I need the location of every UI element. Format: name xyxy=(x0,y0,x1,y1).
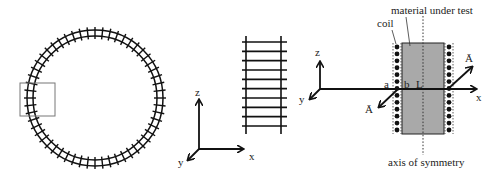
straight-coil-section xyxy=(242,36,287,134)
ring-turn xyxy=(79,29,82,41)
coil-winding-dot xyxy=(447,52,452,57)
coil-winding-dot xyxy=(395,107,400,112)
ring-turn xyxy=(79,156,82,168)
coil-winding-dot xyxy=(395,58,400,63)
y-label: y xyxy=(178,156,184,168)
ring-turn xyxy=(108,29,111,41)
vector-a-left-label: Ā xyxy=(365,103,373,115)
diagram-canvas: z x y z x y Ā Ā a b L material under tes… xyxy=(0,0,500,177)
coil-label: coil xyxy=(377,17,394,29)
cross-section: z x y Ā Ā a b L material under test coil… xyxy=(299,4,482,168)
coil-winding-dot xyxy=(395,72,400,77)
coil-winding-dot xyxy=(447,65,452,70)
ring-turn xyxy=(87,157,88,169)
ring-turn xyxy=(153,111,165,114)
ring-turn xyxy=(137,140,145,148)
coil-winding-dot xyxy=(447,45,452,50)
axis-of-symmetry-label: axis of symmetry xyxy=(388,156,465,168)
coil-winding-dot xyxy=(395,114,400,119)
vector-a-right-label: Ā xyxy=(465,52,473,64)
material-label: material under test xyxy=(391,4,473,16)
ring-turn xyxy=(154,90,166,91)
z-label: z xyxy=(315,46,320,58)
vector-a-left-arrow xyxy=(379,90,397,107)
coil-winding-dot xyxy=(447,58,452,63)
coil-winding-dot xyxy=(447,79,452,84)
coil-winding-dot xyxy=(447,114,452,119)
coil-winding-dot xyxy=(447,121,452,126)
coil-winding-dot xyxy=(395,45,400,50)
z-label: z xyxy=(195,86,200,98)
label-a: a xyxy=(384,78,389,90)
coil-winding-dot xyxy=(395,52,400,57)
x-label: x xyxy=(249,150,255,162)
label-b: b xyxy=(404,78,410,90)
material-leader xyxy=(406,17,410,46)
ring-turn xyxy=(24,90,36,91)
ring-turn xyxy=(102,157,103,169)
ring-turn xyxy=(45,140,53,148)
coil-winding-dot xyxy=(395,100,400,105)
coil-winding-dot xyxy=(447,107,452,112)
coil-winding-dot xyxy=(395,128,400,133)
y-label: y xyxy=(299,93,305,105)
ring-turn xyxy=(137,48,145,56)
ring-turn xyxy=(45,48,53,56)
ring-turn xyxy=(108,156,111,168)
coil-leader xyxy=(392,30,396,44)
coil-winding-dot xyxy=(447,93,452,98)
ring-turn xyxy=(154,105,166,106)
coil-winding-dot xyxy=(395,93,400,98)
coil-winding-dot xyxy=(447,100,452,105)
y-axis xyxy=(188,149,199,160)
highlight-box xyxy=(20,83,55,116)
y-axis xyxy=(310,89,320,99)
ring-turn xyxy=(26,111,38,114)
ring-turn xyxy=(153,82,165,85)
ring-turn xyxy=(24,105,36,106)
toroidal-coil xyxy=(24,27,166,169)
ring-turn xyxy=(102,27,103,39)
coil-winding-dot xyxy=(395,121,400,126)
coil-winding-dot xyxy=(447,72,452,77)
coil-winding-dot xyxy=(395,65,400,70)
ring-turn xyxy=(87,27,88,39)
coil-winding-dot xyxy=(447,128,452,133)
vector-a-right-arrow xyxy=(449,67,472,88)
label-L: L xyxy=(416,78,423,90)
coil-winding-dot xyxy=(395,79,400,84)
ring-turns xyxy=(24,27,166,169)
x-label: x xyxy=(476,91,482,103)
